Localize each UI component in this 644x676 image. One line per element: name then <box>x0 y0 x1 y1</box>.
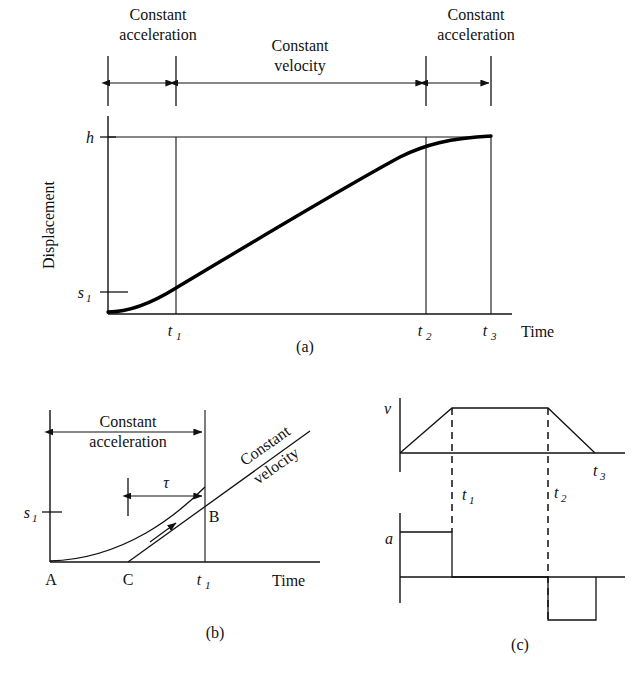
panel-a-left-span-label-line1: Constant <box>130 6 187 23</box>
panel-b-x-label-t1: t <box>197 571 202 588</box>
panel-b-tau-label: τ <box>163 474 170 491</box>
panel-a-right-span-label-line1: Constant <box>448 6 505 23</box>
panel-a-mid-span-label-line1: Constant <box>272 37 329 54</box>
panel-b-constant-acceleration-line1: Constant <box>100 413 157 430</box>
panel-c-velocity-trace <box>400 408 595 453</box>
panel-c-x-label-t3: t <box>593 462 598 479</box>
panel-a-right-span-label-line2: acceleration <box>437 26 514 43</box>
panel-a-x-label-t1-subscript: 1 <box>176 330 182 342</box>
panel-b-point-c-label: C <box>123 571 134 588</box>
panel-b-x-label-t1-subscript: 1 <box>205 579 211 591</box>
panel-c: v t 1 t 2 t 3 a (c) <box>384 398 625 654</box>
panel-b-point-b-label: B <box>209 508 220 525</box>
panel-b-x-axis-title: Time <box>272 572 305 589</box>
panel-a-x-label-t3-subscript: 3 <box>490 330 497 342</box>
panel-a-y-axis-title: Displacement <box>40 180 58 269</box>
panel-b-point-a-label: A <box>45 571 57 588</box>
panel-c-velocity-symbol: v <box>384 400 392 417</box>
panel-a-x-axis-title: Time <box>521 323 554 340</box>
panel-a-left-span-label-line2: acceleration <box>119 26 196 43</box>
panel-a-label: (a) <box>296 338 314 356</box>
panel-a-mid-span-label-line2: velocity <box>274 57 326 75</box>
panel-b: Constant acceleration τ s 1 Constant vel… <box>24 410 320 642</box>
panel-b-curve-arrow <box>150 523 176 542</box>
panel-c-x-label-t1: t <box>462 486 467 503</box>
panel-c-x-label-t1-subscript: 1 <box>469 494 475 506</box>
panel-a-y-label-h: h <box>86 129 94 146</box>
panel-b-y-label-s: s <box>24 504 30 521</box>
panel-a-x-label-t2: t <box>418 322 423 339</box>
panel-a-y-label-s-subscript: 1 <box>86 292 92 304</box>
panel-b-label: (b) <box>206 624 225 642</box>
motion-profile-figure: Constant acceleration Constant velocity … <box>0 0 644 676</box>
panel-a-displacement-curve <box>108 136 491 312</box>
panel-a-x-label-t1: t <box>168 322 173 339</box>
panel-c-x-label-t2: t <box>554 484 559 501</box>
panel-a-x-label-t3: t <box>483 322 488 339</box>
panel-c-acceleration-trace <box>400 532 596 620</box>
panel-a-y-label-s: s <box>78 284 84 301</box>
panel-c-acceleration-symbol: a <box>385 530 393 547</box>
panel-c-x-label-t3-subscript: 3 <box>599 470 606 482</box>
figure-root: Constant acceleration Constant velocity … <box>0 0 644 676</box>
panel-b-y-label-s-subscript: 1 <box>32 512 38 524</box>
panel-a: Constant acceleration Constant velocity … <box>40 6 554 356</box>
panel-b-constant-acceleration-line2: acceleration <box>89 433 166 450</box>
panel-c-x-label-t2-subscript: 2 <box>561 492 567 504</box>
panel-a-x-label-t2-subscript: 2 <box>426 330 432 342</box>
panel-c-label: (c) <box>511 636 529 654</box>
